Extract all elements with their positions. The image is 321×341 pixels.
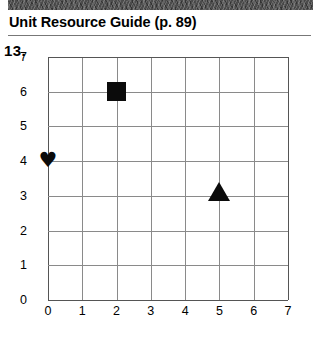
grid-line-vertical (288, 57, 289, 300)
y-axis-tick-label: 3 (7, 190, 27, 203)
y-axis-tick-label: 6 (7, 86, 27, 99)
grid-line-horizontal (48, 265, 288, 266)
grid-line-vertical (48, 57, 49, 300)
x-axis-tick-label: 7 (278, 305, 298, 318)
grid-line-horizontal (48, 231, 288, 232)
grid-line-vertical (151, 57, 152, 300)
x-axis-tick-label: 2 (107, 305, 127, 318)
grid-line-horizontal (48, 126, 288, 127)
grid-line-horizontal (48, 300, 288, 301)
x-axis-tick-label: 0 (38, 305, 58, 318)
grid-line-horizontal (48, 161, 288, 162)
y-axis-tick-label: 5 (7, 120, 27, 133)
y-axis-tick-label: 4 (7, 155, 27, 168)
page-title: Unit Resource Guide (p. 89) (9, 14, 196, 30)
data-point-heart: ♥ (39, 151, 58, 170)
grid-line-vertical (82, 57, 83, 300)
grid-line-horizontal (48, 196, 288, 197)
data-point-square (107, 82, 126, 101)
decorative-top-band (8, 0, 313, 10)
grid-line-vertical (219, 57, 220, 300)
y-axis-tick-label: 7 (7, 51, 27, 64)
coordinate-grid: ♥ (48, 57, 288, 300)
x-axis-tick-label: 4 (175, 305, 195, 318)
grid-line-vertical (185, 57, 186, 300)
x-axis-tick-label: 1 (72, 305, 92, 318)
x-axis-tick-label: 6 (244, 305, 264, 318)
y-axis-tick-label: 1 (7, 259, 27, 272)
y-axis-tick-label: 0 (7, 294, 27, 307)
x-axis-tick-label: 5 (209, 305, 229, 318)
data-point-triangle (208, 182, 230, 201)
title-divider (8, 35, 311, 36)
grid-line-vertical (254, 57, 255, 300)
grid-line-horizontal (48, 92, 288, 93)
grid-line-horizontal (48, 57, 288, 58)
y-axis-tick-label: 2 (7, 225, 27, 238)
x-axis-tick-label: 3 (141, 305, 161, 318)
